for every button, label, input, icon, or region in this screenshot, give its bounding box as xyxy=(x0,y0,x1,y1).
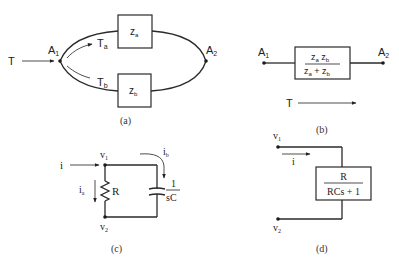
flow-label-T: T xyxy=(286,97,293,109)
resistor-symbol xyxy=(101,181,109,201)
caption-c: (c) xyxy=(111,243,122,255)
caption-d: (d) xyxy=(316,243,328,255)
node-A1 xyxy=(58,59,62,63)
input-current-label: i xyxy=(60,159,63,171)
node-A1-label: A1 xyxy=(48,44,59,57)
node-v1 xyxy=(103,163,107,167)
branch-b-wire-left xyxy=(60,61,118,91)
node-A2 xyxy=(381,61,385,65)
panel-d: v1 v2 i R RCs + 1 (d) xyxy=(273,130,371,255)
resistor-label: R xyxy=(112,185,120,197)
branch-b-wire-right xyxy=(151,61,206,91)
panel-b: A1 A2 za zb za + zb T (b) xyxy=(258,46,389,136)
node-v2 xyxy=(276,217,280,221)
node-A2-label: A2 xyxy=(378,46,389,59)
node-v1-label: v1 xyxy=(100,149,108,161)
node-v1 xyxy=(276,145,280,149)
caption-b: (b) xyxy=(316,124,328,136)
input-label-T: T xyxy=(8,55,15,67)
node-v2-label: v2 xyxy=(100,221,108,233)
current-label: i xyxy=(292,156,295,167)
node-v2-label: v2 xyxy=(273,222,281,234)
branch-b-label: Tb xyxy=(97,76,108,89)
branch-a-label: Ta xyxy=(97,37,108,50)
node-v2 xyxy=(103,215,107,219)
panel-a: T A1 A2 Ta Tb za zb (a) xyxy=(8,15,217,127)
caption-a: (a) xyxy=(120,115,131,127)
node-v1-label: v1 xyxy=(273,130,281,142)
node-A1-label: A1 xyxy=(258,46,269,59)
circuit-diagram-figure: T A1 A2 Ta Tb za zb (a) A1 A2 za zb za +… xyxy=(0,0,399,265)
node-A1 xyxy=(262,61,266,65)
current-b-label: ib xyxy=(163,146,169,158)
panel-c: i R 1 sC v1 v2 ia ib (c) xyxy=(60,146,180,255)
node-A2-label: A2 xyxy=(206,44,217,57)
denominator: RCs + 1 xyxy=(327,186,360,197)
current-b-arrow xyxy=(140,154,164,178)
cap-denominator: sC xyxy=(166,192,177,203)
cap-numerator: 1 xyxy=(171,178,176,189)
numerator: R xyxy=(340,171,347,182)
node-A2 xyxy=(204,59,208,63)
current-a-label: ia xyxy=(79,184,85,196)
branch-a-wire-right xyxy=(152,31,206,61)
